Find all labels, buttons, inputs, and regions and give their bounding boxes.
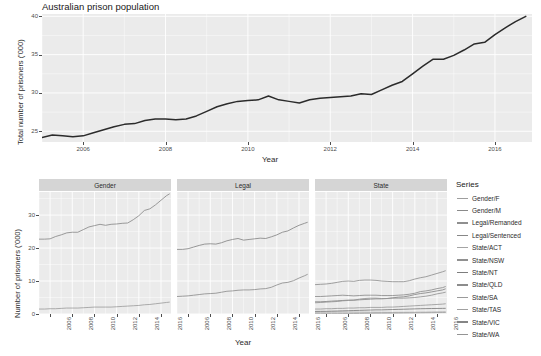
legend-item[interactable]: Legal/Sentenced bbox=[456, 229, 522, 241]
facet-panel-state-plot bbox=[315, 192, 447, 314]
top-chart-x-axis-label: Year bbox=[262, 155, 278, 164]
legend-line-icon bbox=[456, 230, 469, 241]
top-chart-x-tickmark bbox=[248, 142, 249, 145]
top-chart-y-tick: 25 bbox=[30, 128, 38, 134]
facet-x-tickmark bbox=[415, 314, 416, 317]
facet-strip-gender-label: Gender bbox=[94, 182, 116, 189]
facet-x-tickmark bbox=[299, 314, 300, 317]
facet-x-tick: 2016 bbox=[315, 317, 321, 330]
legend-line-icon bbox=[456, 217, 469, 228]
top-chart-x-tickmark bbox=[495, 142, 496, 145]
legend-item-label: State/TAS bbox=[472, 306, 501, 313]
legend-line-icon bbox=[456, 279, 469, 290]
top-chart-y-tickmark bbox=[39, 93, 42, 94]
legend-item-label: Gender/F bbox=[472, 195, 499, 202]
top-chart-x-tick: 2008 bbox=[159, 146, 172, 152]
top-chart-x-tickmark bbox=[166, 142, 167, 145]
legend-line-icon bbox=[456, 205, 469, 216]
legend-item[interactable]: State/ACT bbox=[456, 242, 522, 254]
legend: Series Gender/FGender/MLegal/RemandedLeg… bbox=[456, 180, 522, 341]
legend-item[interactable]: State/QLD bbox=[456, 279, 522, 291]
top-chart-x-tickmark bbox=[83, 142, 84, 145]
facet-y-tickmark bbox=[36, 215, 39, 216]
legend-item[interactable]: State/SA bbox=[456, 291, 522, 303]
facet-x-tickmark bbox=[232, 314, 233, 317]
legend-item[interactable]: State/TAS bbox=[456, 304, 522, 316]
facet-x-tick: 2012 bbox=[271, 317, 277, 330]
facet-x-tickmark bbox=[277, 314, 278, 317]
facet-y-tick: 30 bbox=[26, 212, 35, 218]
figure-root: Australian prison population Total numbe… bbox=[0, 0, 541, 356]
legend-line-icon bbox=[456, 193, 469, 204]
legend-item-label: State/SA bbox=[472, 294, 498, 301]
facet-panel-state bbox=[315, 192, 447, 314]
facet-x-tick: 2008 bbox=[88, 317, 94, 330]
top-chart-y-tickmark bbox=[39, 16, 42, 17]
legend-line-icon bbox=[456, 292, 469, 303]
legend-item[interactable]: State/WA bbox=[456, 328, 522, 340]
facet-y-tickmark bbox=[36, 314, 39, 315]
facet-y-tick: 20 bbox=[26, 245, 35, 251]
top-chart-x-tickmark bbox=[413, 142, 414, 145]
facet-x-tick: 2012 bbox=[133, 317, 139, 330]
facet-x-tick: 2010 bbox=[110, 317, 116, 330]
facet-x-tickmark bbox=[50, 314, 51, 317]
legend-item-label: State/QLD bbox=[472, 281, 502, 288]
legend-item-label: State/ACT bbox=[472, 244, 502, 251]
top-chart-y-tick: 40 bbox=[30, 13, 38, 19]
facet-strip-legal: Legal bbox=[177, 179, 309, 191]
legend-item[interactable]: Gender/F bbox=[456, 192, 522, 204]
facet-panel-gender-plot bbox=[39, 192, 171, 314]
top-chart-y-tickmark bbox=[39, 131, 42, 132]
facet-x-tickmark bbox=[72, 314, 73, 317]
top-chart-x-tickmark bbox=[330, 142, 331, 145]
facet-x-tickmark bbox=[94, 314, 95, 317]
legend-items: Gender/FGender/MLegal/RemandedLegal/Sent… bbox=[456, 192, 522, 341]
legend-line-icon bbox=[456, 267, 469, 278]
facet-x-tickmark bbox=[393, 314, 394, 317]
top-chart-panel bbox=[42, 14, 532, 142]
top-chart-y-tick: 30 bbox=[30, 89, 38, 95]
facet-x-tick: 2008 bbox=[226, 317, 232, 330]
facet-x-tickmark bbox=[210, 314, 211, 317]
legend-item[interactable]: State/NSW bbox=[456, 254, 522, 266]
facet-y-tickmark bbox=[36, 248, 39, 249]
legend-item[interactable]: State/NT bbox=[456, 266, 522, 278]
facet-x-tickmark bbox=[117, 314, 118, 317]
legend-item[interactable]: Legal/Remanded bbox=[456, 217, 522, 229]
legend-line-icon bbox=[456, 304, 469, 315]
legend-item-label: Legal/Remanded bbox=[472, 219, 522, 226]
facet-y-tickmark bbox=[36, 281, 39, 282]
facet-strip-gender: Gender bbox=[39, 179, 171, 191]
facet-y-tick: 10 bbox=[26, 278, 35, 284]
facet-x-tick: 2014 bbox=[155, 317, 161, 330]
facet-x-tick: 2006 bbox=[66, 317, 72, 330]
top-chart-x-tick: 2014 bbox=[406, 146, 419, 152]
top-chart-plot bbox=[42, 14, 532, 142]
legend-item-label: State/NT bbox=[472, 269, 498, 276]
legend-item-label: State/WA bbox=[472, 331, 499, 338]
facet-x-tickmark bbox=[326, 314, 327, 317]
facet-x-tick: 2006 bbox=[342, 317, 348, 330]
top-chart-x-tick: 2012 bbox=[324, 146, 337, 152]
facet-x-tick: 2016 bbox=[177, 317, 183, 330]
legend-item-label: Legal/Sentenced bbox=[472, 232, 521, 239]
facet-x-axis-label: Year bbox=[235, 338, 251, 347]
facet-panel-legal-plot bbox=[177, 192, 309, 314]
facet-x-tickmark bbox=[161, 314, 162, 317]
legend-item-label: Gender/M bbox=[472, 207, 501, 214]
top-chart-y-axis-label: Total number of prisoners ('000) bbox=[16, 39, 25, 145]
legend-item[interactable]: Gender/M bbox=[456, 204, 522, 216]
facet-x-tick: 2010 bbox=[386, 317, 392, 330]
legend-item[interactable]: State/VIC bbox=[456, 316, 522, 328]
facet-x-tick: 2008 bbox=[364, 317, 370, 330]
facet-x-tickmark bbox=[255, 314, 256, 317]
top-chart-y-tick: 35 bbox=[30, 51, 38, 57]
top-chart-x-tick: 2010 bbox=[241, 146, 254, 152]
facet-x-tickmark bbox=[348, 314, 349, 317]
legend-title: Series bbox=[456, 180, 522, 189]
facet-x-tickmark bbox=[370, 314, 371, 317]
facet-x-tick: 2006 bbox=[204, 317, 210, 330]
facet-strip-state-label: State bbox=[373, 182, 388, 189]
facet-x-tickmark bbox=[437, 314, 438, 317]
